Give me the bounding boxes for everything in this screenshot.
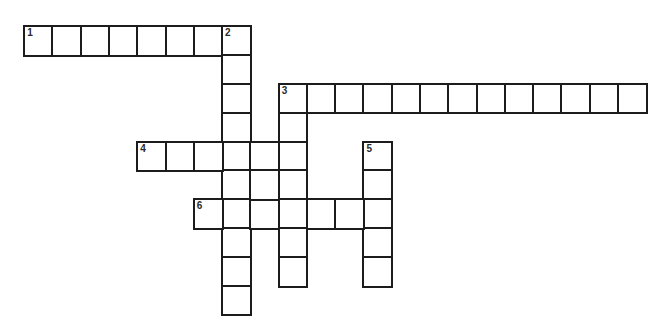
crossword-cell[interactable] [391, 83, 422, 115]
crossword-cell[interactable] [589, 83, 620, 115]
crossword-cell[interactable] [504, 83, 535, 115]
crossword-cell[interactable] [278, 169, 309, 201]
crossword-cell[interactable] [362, 83, 393, 115]
crossword-cell[interactable] [221, 83, 252, 115]
crossword-cell[interactable] [249, 198, 280, 230]
crossword-cell[interactable] [362, 198, 393, 230]
crossword-cell[interactable] [51, 25, 82, 57]
crossword-cell[interactable] [193, 141, 224, 173]
crossword-cell[interactable] [221, 198, 252, 230]
crossword-grid: 123456 [0, 0, 666, 333]
crossword-cell[interactable] [221, 169, 252, 201]
crossword-cell[interactable] [617, 83, 648, 115]
crossword-cell[interactable]: 5 [362, 141, 393, 173]
crossword-cell[interactable] [306, 83, 337, 115]
crossword-cell[interactable] [560, 83, 591, 115]
crossword-cell[interactable] [362, 227, 393, 259]
crossword-cell[interactable]: 2 [221, 25, 252, 57]
crossword-cell[interactable] [221, 256, 252, 288]
crossword-cell[interactable] [221, 112, 252, 144]
crossword-cell[interactable]: 3 [278, 83, 309, 115]
crossword-cell[interactable] [249, 141, 280, 173]
crossword-cell[interactable] [278, 227, 309, 259]
crossword-cell[interactable] [362, 256, 393, 288]
crossword-cell[interactable] [278, 141, 309, 173]
crossword-cell[interactable] [278, 256, 309, 288]
crossword-cell[interactable] [419, 83, 450, 115]
clue-number: 4 [140, 143, 146, 154]
crossword-cell[interactable] [476, 83, 507, 115]
crossword-cell[interactable] [532, 83, 563, 115]
crossword-cell[interactable] [221, 141, 252, 173]
clue-number: 2 [225, 27, 231, 38]
crossword-cell[interactable] [306, 198, 337, 230]
crossword-cell[interactable] [108, 25, 139, 57]
crossword-cell[interactable]: 1 [23, 25, 54, 57]
crossword-cell[interactable] [221, 227, 252, 259]
clue-number: 3 [282, 85, 288, 96]
crossword-cell[interactable]: 6 [193, 198, 224, 230]
clue-number: 5 [366, 143, 372, 154]
crossword-cell[interactable] [278, 112, 309, 144]
crossword-cell[interactable] [193, 25, 224, 57]
crossword-cell[interactable] [334, 83, 365, 115]
crossword-cell[interactable] [165, 141, 196, 173]
crossword-cell[interactable] [221, 54, 252, 86]
crossword-cell[interactable] [362, 169, 393, 201]
crossword-cell[interactable] [165, 25, 196, 57]
crossword-cell[interactable] [221, 285, 252, 317]
crossword-cell[interactable]: 4 [136, 141, 167, 173]
clue-number: 6 [197, 200, 203, 211]
crossword-cell[interactable] [278, 198, 309, 230]
crossword-cell[interactable] [136, 25, 167, 57]
crossword-cell[interactable] [334, 198, 365, 230]
crossword-cell[interactable] [80, 25, 111, 57]
clue-number: 1 [27, 27, 33, 38]
crossword-cell[interactable] [249, 169, 280, 201]
crossword-cell[interactable] [447, 83, 478, 115]
